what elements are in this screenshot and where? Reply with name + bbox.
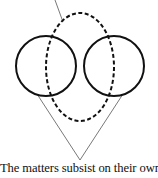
pointer-line — [55, 0, 63, 22]
venn-diagram — [0, 0, 158, 178]
v-line-left — [37, 94, 80, 160]
dashed-ellipse — [46, 13, 114, 121]
v-line-right — [80, 94, 123, 160]
left-circle — [16, 36, 76, 96]
right-circle — [84, 36, 144, 96]
caption: The matters subsist on their own. — [0, 161, 158, 176]
